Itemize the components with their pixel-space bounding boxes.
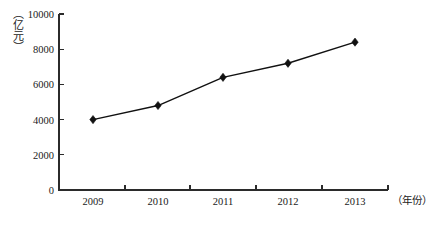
x-axis-unit-label: （年份）: [392, 194, 432, 207]
y-tick-label: 8000: [33, 44, 54, 55]
y-axis-ticks: [59, 49, 64, 155]
data-point-marker: [220, 73, 226, 81]
axis-lines: [59, 14, 388, 190]
line-chart: （亿元） 10000 8000 6000 4000 2000 0: [0, 0, 437, 228]
x-tick-label: 2010: [148, 196, 169, 207]
x-axis-tick-labels: 2009 2010 2011 2012 2013: [83, 196, 366, 207]
y-tick-label: 2000: [33, 150, 54, 161]
x-tick-label: 2009: [83, 196, 104, 207]
x-tick-label: 2013: [345, 196, 366, 207]
x-tick-label: 2011: [213, 196, 234, 207]
chart-canvas: 10000 8000 6000 4000 2000 0: [0, 0, 437, 228]
series-line: [93, 42, 355, 119]
x-tick-label: 2012: [278, 196, 299, 207]
x-axis-ticks: [125, 185, 322, 190]
series-markers: [90, 38, 358, 124]
axis-frame: [59, 14, 388, 190]
data-point-marker: [352, 38, 358, 46]
y-axis-tick-labels: 10000 8000 6000 4000 2000 0: [28, 9, 54, 196]
data-point-marker: [285, 59, 291, 67]
y-tick-label: 4000: [33, 115, 54, 126]
y-tick-label: 10000: [28, 9, 54, 20]
y-tick-label: 6000: [33, 79, 54, 90]
data-point-marker: [155, 101, 161, 109]
y-tick-label: 0: [49, 185, 54, 196]
data-point-marker: [90, 116, 96, 124]
